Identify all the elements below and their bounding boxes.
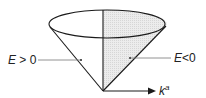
cone-left-edge (50, 27, 103, 91)
leader-dot-positive (80, 59, 82, 61)
label-negative-energy: E<0 (174, 51, 196, 65)
leader-dot-negative (129, 57, 131, 59)
arrowhead-icon (148, 88, 156, 95)
light-cone-diagram: E > 0 E<0 ka (0, 0, 206, 98)
shaded-negative-energy-region (103, 10, 167, 91)
label-positive-energy: E > 0 (8, 53, 37, 67)
label-k-axis: ka (159, 83, 170, 98)
